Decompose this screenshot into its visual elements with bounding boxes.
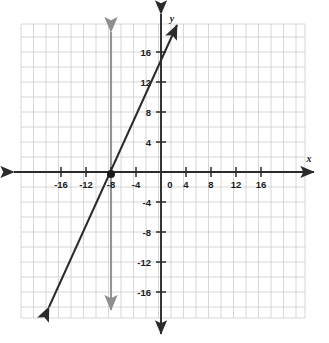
- x-axis-label: x: [306, 153, 312, 164]
- x-tick-label-origin: 0: [167, 179, 172, 190]
- coordinate-plane-figure: -16 -12 -8 -4 0 4 8 12 16 16 12 8 4 -4 -…: [0, 0, 329, 343]
- y-tick-label: -16: [137, 287, 151, 298]
- x-tick-label: -4: [132, 179, 141, 190]
- x-tick-label: -16: [54, 179, 68, 190]
- x-tick-label: -12: [79, 179, 93, 190]
- y-tick-label: -12: [137, 257, 151, 268]
- intersection-point: [107, 170, 115, 178]
- x-tick-label: 4: [183, 179, 189, 190]
- y-tick-label: 4: [146, 137, 152, 148]
- x-tick-label: 12: [231, 179, 242, 190]
- y-tick-label: -4: [143, 197, 152, 208]
- y-tick-label: 16: [140, 47, 151, 58]
- graph-svg: -16 -12 -8 -4 0 4 8 12 16 16 12 8 4 -4 -…: [0, 0, 329, 343]
- x-tick-label: -8: [107, 179, 115, 190]
- x-tick-label: 8: [208, 179, 213, 190]
- x-tick-label: 16: [256, 179, 267, 190]
- y-tick-label: -8: [143, 227, 151, 238]
- y-axis-label: y: [169, 13, 175, 24]
- y-tick-label: 8: [146, 107, 151, 118]
